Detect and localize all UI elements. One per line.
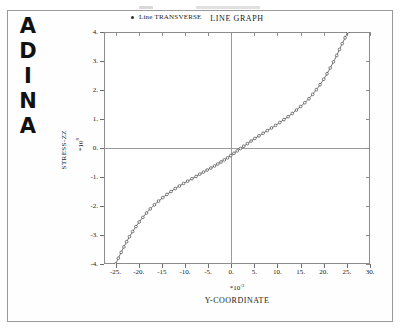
series-data-point: [202, 171, 205, 174]
x-tick-label: 30.: [366, 268, 375, 276]
series-data-point: [295, 109, 298, 112]
series-data-point: [258, 134, 261, 137]
series-data-point: [341, 42, 344, 45]
series-data-point: [138, 221, 141, 224]
adina-logo-letter-4: A: [11, 114, 45, 139]
x-tick-label: -10.: [179, 268, 190, 276]
y-tick-label: 4.: [93, 28, 98, 36]
x-tick-label: 15.: [296, 268, 305, 276]
series-data-point: [213, 165, 216, 168]
series-data-point: [149, 208, 152, 211]
series-data-point: [283, 118, 286, 121]
series-data-point: [226, 157, 229, 160]
series-line: [116, 32, 348, 264]
series-data-point: [270, 127, 273, 130]
series-data-point: [220, 161, 223, 164]
x-tick-label: 10.: [273, 268, 282, 276]
y-tick-label: -3.: [90, 231, 98, 239]
series-data-point: [135, 225, 138, 228]
artifact-mark-right: [196, 6, 260, 9]
data-curve: [104, 32, 370, 264]
series-data-point: [236, 150, 239, 153]
series-data-point: [157, 200, 160, 203]
series-data-point: [216, 163, 219, 166]
series-data-point: [322, 78, 325, 81]
series-data-point: [329, 67, 332, 70]
series-data-point: [195, 175, 198, 178]
series-data-point: [303, 101, 306, 104]
series-data-point: [125, 240, 128, 243]
series-data-point: [278, 121, 281, 124]
series-data-point: [246, 142, 249, 145]
x-tick-label: 0.: [229, 268, 234, 276]
y-axis-title: STRESS-ZZ: [60, 130, 68, 169]
y-tick-label: -2.: [90, 202, 98, 210]
series-data-point: [308, 97, 311, 100]
y-tick-label: 1.: [93, 115, 98, 123]
y-tick-mark: [100, 264, 104, 265]
series-data-point: [223, 159, 226, 162]
series-data-point: [319, 83, 322, 86]
filled-circle-marker-icon: [131, 16, 134, 19]
series-data-point: [274, 124, 277, 127]
series-data-point: [299, 105, 302, 108]
x-tick-label: -25.: [110, 268, 121, 276]
y-tick-label: -1.: [90, 173, 98, 181]
x-tick-label: 25.: [342, 268, 351, 276]
series-data-point: [335, 54, 338, 57]
y-tick-label: 0.: [93, 144, 98, 152]
y-tick-label: -4.: [90, 260, 98, 268]
x-tick-label: -5.: [204, 268, 212, 276]
series-data-point: [332, 61, 335, 64]
series-data-point: [242, 145, 245, 148]
series-data-point: [131, 230, 134, 233]
series-data-point: [338, 48, 341, 51]
series-data-point: [153, 203, 156, 206]
series-data-point: [262, 132, 265, 135]
series-data-point: [145, 212, 148, 215]
series-data-point: [287, 115, 290, 118]
series-data-point: [170, 190, 173, 193]
series-data-point: [142, 216, 145, 219]
series-data-point: [344, 36, 347, 39]
series-data-point: [123, 246, 126, 249]
x-tick-label: 5.: [252, 268, 257, 276]
series-data-point: [178, 185, 181, 188]
series-data-point: [117, 257, 120, 260]
series-data-point: [120, 251, 123, 254]
series-data-point: [166, 193, 169, 196]
series-data-point: [326, 72, 329, 75]
series-data-point: [161, 196, 164, 199]
series-data-point: [191, 177, 194, 180]
series-data-point: [266, 129, 269, 132]
y-axis-multiplier: *108: [75, 138, 85, 151]
series-data-point: [229, 154, 232, 157]
legend: Line TRANSVERSE: [131, 13, 202, 21]
series-data-point: [233, 152, 236, 155]
series-data-point: [291, 112, 294, 115]
series-data-point: [311, 93, 314, 96]
scan-edge-artifact: [0, 0, 403, 9]
x-axis-multiplier: *10-3: [104, 283, 370, 292]
adina-logo-letter-1: D: [11, 39, 45, 64]
series-data-point: [186, 180, 189, 183]
adina-logo: ADINA: [11, 14, 45, 139]
series-data-point: [174, 187, 177, 190]
series-data-point: [250, 140, 253, 143]
series-data-point: [315, 88, 318, 91]
x-tick-label: -15: [157, 268, 166, 276]
series-data-point: [198, 173, 201, 176]
series-data-point: [114, 263, 117, 264]
adina-logo-letter-0: A: [11, 14, 45, 39]
series-data-point: [128, 235, 131, 238]
y-tick-label: 3.: [93, 57, 98, 65]
x-axis-title: Y-COORDINATE: [104, 296, 370, 305]
x-tick-label: 20.: [319, 268, 328, 276]
x-tick-label: -20.: [133, 268, 144, 276]
adina-logo-letter-3: N: [11, 89, 45, 114]
plot-area: 4.3.2.1.0.-1.-2.-3.-4. -25.-20.-15-10.-5…: [104, 32, 370, 264]
series-data-point: [346, 32, 349, 33]
y-tick-label: 2.: [93, 86, 98, 94]
legend-label: Line TRANSVERSE: [139, 13, 202, 21]
series-data-point: [253, 137, 256, 140]
